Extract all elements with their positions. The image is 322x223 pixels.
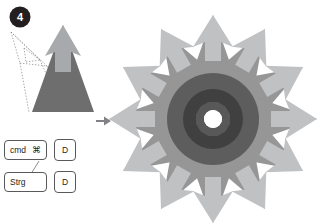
keycap-cmd[interactable]: cmd ⌘ bbox=[4, 140, 47, 160]
source-arrow-group bbox=[11, 25, 94, 112]
keycap-cmd-label: cmd bbox=[10, 146, 26, 155]
command-icon: ⌘ bbox=[32, 146, 41, 155]
keycap-d-win-label: D bbox=[62, 178, 68, 187]
keycap-d-mac[interactable]: D bbox=[54, 139, 76, 161]
step-badge-label: 4 bbox=[17, 11, 24, 23]
step-flow-arrow bbox=[96, 117, 111, 126]
illustration-canvas: 4 cmd ⌘ D Strg D bbox=[0, 0, 322, 223]
keycap-strg[interactable]: Strg bbox=[4, 172, 47, 192]
step-badge: 4 bbox=[10, 7, 31, 28]
keycap-strg-label: Strg bbox=[10, 178, 26, 187]
illustration-artwork: 4 bbox=[0, 0, 322, 223]
keycap-d-mac-label: D bbox=[62, 146, 68, 155]
pivot-hole bbox=[204, 110, 222, 128]
keycap-d-win[interactable]: D bbox=[54, 171, 76, 193]
